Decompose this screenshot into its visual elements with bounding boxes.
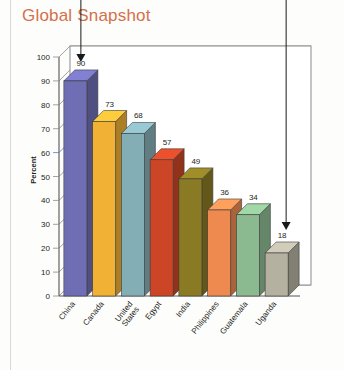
y-tick-label: 20 [41,244,50,253]
y-tick-label: 100 [37,53,51,62]
category-label: Guatemala [218,299,250,336]
value-label: 49 [191,157,200,166]
figure-page: Global Snapshot 0102030405060708090100 9… [0,0,344,370]
category-label: Uganda [254,299,279,327]
y-tick-label: 80 [41,101,50,110]
y-axis-ticks: 0102030405060708090100 [37,53,59,301]
value-label: 18 [278,231,287,240]
category-label: Philippines [190,300,221,336]
value-label: 34 [249,193,258,202]
category-label: Canada [81,299,106,327]
y-tick-label: 90 [41,77,50,86]
y-tick-label: 0 [46,292,51,301]
category-labels: ChinaCanadaUnitedStatesEgyptIndiaPhilipp… [57,299,279,336]
bar-chart: 0102030405060708090100 9073685749363418 … [0,0,344,370]
value-label: 36 [220,188,229,197]
y-axis-title: Percent [29,156,38,184]
category-label: Egypt [144,299,164,321]
value-label: 68 [134,111,143,120]
category-label: India [174,299,192,319]
value-label: 57 [163,138,172,147]
category-label: UnitedStates [113,300,141,329]
y-tick-label: 60 [41,149,50,158]
y-tick-label: 40 [41,196,50,205]
y-tick-label: 70 [41,125,50,134]
category-label: China [57,299,77,321]
y-tick-label: 30 [41,220,50,229]
y-tick-label: 50 [41,173,50,182]
bar-uganda [265,242,299,296]
y-tick-label: 10 [41,268,50,277]
value-label: 73 [105,100,114,109]
